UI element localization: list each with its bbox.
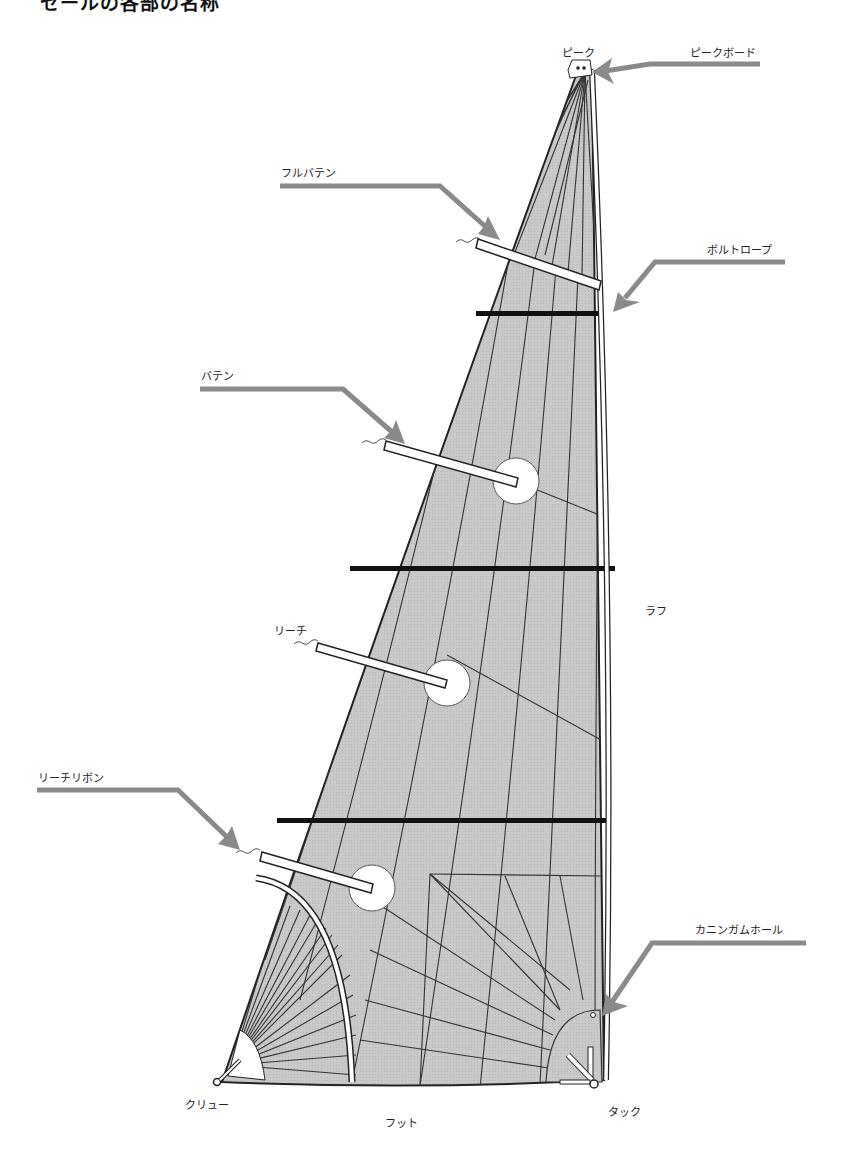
arrow-bolt-rope (613, 262, 785, 312)
label-bolt-rope: ボルトロープ (707, 241, 772, 257)
peak-board (568, 60, 592, 78)
label-clew: クリュー (185, 1096, 229, 1112)
sail-diagram (0, 0, 843, 1172)
tack-ring (590, 1080, 598, 1088)
cunningham-hole (591, 1013, 596, 1018)
arrow-leech-ribbon (37, 790, 240, 850)
label-foot: フット (385, 1114, 418, 1130)
arrow-cunningham (602, 943, 806, 1016)
label-luff: ラフ (645, 602, 667, 618)
label-peak: ピーク (562, 44, 595, 60)
clew-ring (214, 1079, 221, 1086)
label-leech: リーチ (274, 622, 307, 638)
arrow-full-batten (280, 186, 500, 240)
label-cunningham-hole: カニンガムホール (695, 921, 783, 937)
label-full-batten: フルバテン (281, 164, 336, 180)
label-peak-board: ピークボード (690, 44, 756, 60)
label-batten: バテン (201, 367, 234, 383)
arrow-peak-board (592, 58, 760, 84)
arrow-batten (200, 389, 405, 444)
label-tack: タック (608, 1103, 641, 1119)
label-leech-ribbon: リーチリボン (38, 769, 104, 785)
